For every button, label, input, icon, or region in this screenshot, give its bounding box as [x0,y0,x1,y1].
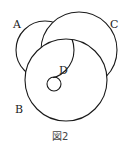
label-b: B [15,103,23,116]
circle-b [25,39,107,121]
circle-c [41,12,117,88]
figure-caption: 図2 [52,131,68,142]
figure-diagram: A C D B 図2 [0,0,125,145]
label-a: A [12,18,22,31]
label-d: D [59,64,68,77]
label-c: C [110,18,118,31]
circle-d [47,77,61,91]
